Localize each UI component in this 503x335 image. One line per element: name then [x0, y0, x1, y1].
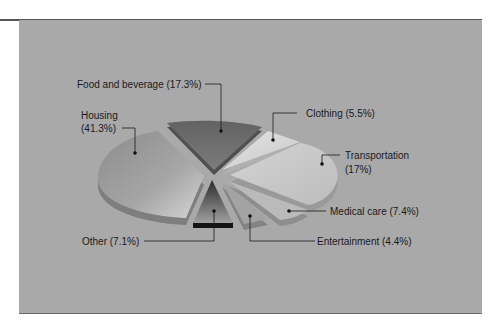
label-housing-value: (41.3%) — [81, 122, 116, 135]
label-housing-name: Housing — [81, 109, 118, 122]
label-transportation-value: (17%) — [345, 163, 372, 176]
pie-chart — [0, 0, 503, 335]
label-food-and-beverage: Food and beverage (17.3%) — [77, 78, 202, 91]
label-other: Other (7.1%) — [82, 235, 139, 248]
label-entertainment: Entertainment (4.4%) — [317, 235, 412, 248]
label-transportation-name: Transportation — [345, 149, 409, 162]
label-clothing: Clothing (5.5%) — [306, 107, 375, 120]
label-medical-care: Medical care (7.4%) — [330, 205, 419, 218]
